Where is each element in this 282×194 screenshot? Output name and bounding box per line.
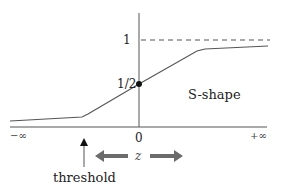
s-shape-diagram: 1 1/2 S-shape −∞ 0 +∞ z threshold: [0, 0, 282, 194]
curve-label: S-shape: [188, 87, 241, 102]
threshold-arrow-icon: [80, 138, 88, 146]
y-label-one: 1: [123, 33, 131, 47]
right-arrow-icon: [150, 150, 183, 162]
threshold-label: threshold: [53, 170, 116, 185]
left-arrow-icon: [95, 150, 128, 162]
variable-label: z: [134, 149, 142, 163]
x-label-zero: 0: [135, 131, 143, 145]
x-label-neg-inf: −∞: [10, 130, 27, 141]
y-label-half: 1/2: [117, 77, 136, 91]
midpoint-dot: [136, 81, 142, 87]
x-label-pos-inf: +∞: [250, 130, 267, 141]
